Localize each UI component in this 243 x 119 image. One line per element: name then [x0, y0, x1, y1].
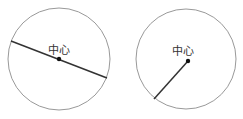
left-center-label: 中心 [48, 44, 70, 57]
left-circle-figure: 中心 [8, 8, 110, 110]
right-radius-line [154, 61, 188, 99]
left-center-dot [57, 57, 61, 61]
right-center-label: 中心 [172, 45, 194, 58]
right-center-dot [186, 59, 190, 63]
circles-diagram: 中心 中心 [0, 0, 243, 119]
right-circle [136, 9, 236, 109]
right-circle-figure: 中心 [136, 9, 236, 109]
